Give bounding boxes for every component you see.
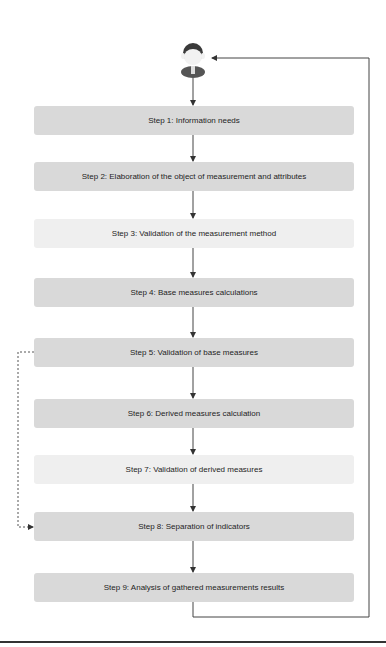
step-2-label: Step 2: Elaboration of the object of mea…	[82, 172, 307, 181]
bottom-divider	[0, 641, 386, 643]
step-9-box: Step 9: Analysis of gathered measurement…	[34, 573, 354, 602]
step-6-box: Step 6: Derived measures calculation	[34, 399, 354, 428]
step-3-box: Step 3: Validation of the measurement me…	[34, 219, 354, 248]
step-6-label: Step 6: Derived measures calculation	[128, 409, 261, 418]
step-5-label: Step 5: Validation of base measures	[130, 348, 258, 357]
step-1-label: Step 1: Information needs	[148, 116, 240, 125]
connectors-layer	[0, 0, 386, 647]
step-8-label: Step 8: Separation of indicators	[138, 522, 250, 531]
step-9-label: Step 9: Analysis of gathered measurement…	[104, 583, 285, 592]
step-7-label: Step 7: Validation of derived measures	[126, 465, 263, 474]
step-4-box: Step 4: Base measures calculations	[34, 278, 354, 307]
step-2-box: Step 2: Elaboration of the object of mea…	[34, 162, 354, 191]
step-8-box: Step 8: Separation of indicators	[34, 512, 354, 541]
step-1-box: Step 1: Information needs	[34, 106, 354, 135]
step-4-label: Step 4: Base measures calculations	[130, 288, 257, 297]
step-3-label: Step 3: Validation of the measurement me…	[112, 229, 276, 238]
step-7-box: Step 7: Validation of derived measures	[34, 455, 354, 484]
user-avatar-icon	[176, 38, 210, 78]
dashed-skip-arrow	[18, 352, 34, 527]
step-5-box: Step 5: Validation of base measures	[34, 338, 354, 367]
